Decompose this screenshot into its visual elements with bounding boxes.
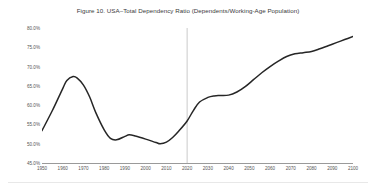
x-tick-label: 2100 <box>348 166 358 172</box>
x-tick-label: 2040 <box>223 166 233 172</box>
x-tick-label: 2030 <box>203 166 213 172</box>
x-axis-tick-labels: 1950196019701980199020002010202020302040… <box>42 166 353 176</box>
y-tick-label: 70.0% <box>14 64 40 69</box>
y-tick-label: 80.0% <box>14 26 40 31</box>
y-tick-label: 60.0% <box>14 103 40 108</box>
x-tick-label: 2080 <box>306 166 316 172</box>
line-chart-svg <box>42 28 353 163</box>
x-tick-label: 2090 <box>327 166 337 172</box>
figure-container: Figure 10. USA–Total Dependency Ratio (D… <box>0 0 376 188</box>
y-tick-label: 65.0% <box>14 83 40 88</box>
x-tick-label: 1970 <box>78 166 88 172</box>
y-tick-label: 50.0% <box>14 141 40 146</box>
x-axis-line <box>42 163 353 164</box>
x-tick-label: 2050 <box>244 166 254 172</box>
x-tick-label: 2010 <box>161 166 171 172</box>
dependency-ratio-line <box>42 36 353 143</box>
x-tick-label: 1980 <box>99 166 109 172</box>
figure-bottom-rule <box>8 182 368 183</box>
x-tick-label: 1960 <box>58 166 68 172</box>
x-tick-label: 2060 <box>265 166 275 172</box>
x-tick-label: 1950 <box>37 166 47 172</box>
x-tick-label: 1990 <box>120 166 130 172</box>
x-tick-label: 2020 <box>182 166 192 172</box>
chart-title: Figure 10. USA–Total Dependency Ratio (D… <box>0 7 376 14</box>
y-tick-label: 45.0% <box>14 161 40 166</box>
y-axis-tick-labels: 80.0%75.0%70.0%65.0%60.0%55.0%50.0%45.0% <box>14 28 40 163</box>
y-tick-label: 55.0% <box>14 122 40 127</box>
x-tick-label: 2000 <box>141 166 151 172</box>
y-tick-label: 75.0% <box>14 45 40 50</box>
plot-area <box>42 28 353 163</box>
x-tick-label: 2070 <box>286 166 296 172</box>
